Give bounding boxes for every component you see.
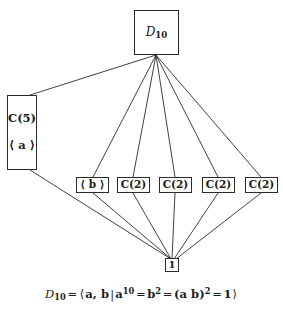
presentation-relation-1-base: a <box>115 287 123 301</box>
node-label-c2-1: C(2) <box>121 179 147 190</box>
node-subgroup-b: ⟨ b ⟩ <box>76 177 109 193</box>
edge-c2-1-to-identity <box>133 193 171 259</box>
node-label-identity: 1 <box>169 260 176 271</box>
node-label-c5: C(5) <box>8 112 36 124</box>
presentation-relation-1-exponent: 10 <box>123 286 135 296</box>
edge-c2-4-to-identity <box>176 193 261 259</box>
presentation-equals-1: = <box>66 287 79 301</box>
node-label-c2-3: C(2) <box>206 179 232 190</box>
presentation-equals-2: = <box>134 287 147 301</box>
node-label-c2-4: C(2) <box>249 179 275 190</box>
node-label-c2-2: C(2) <box>163 179 189 190</box>
node-cyclic-group-c2-2: C(2) <box>159 177 192 193</box>
node-cyclic-group-c2-4: C(2) <box>245 177 278 193</box>
presentation-equals-3: = <box>161 287 174 301</box>
node-trivial-subgroup: 1 <box>165 258 179 272</box>
node-cyclic-group-c2-3: C(2) <box>202 177 235 193</box>
presentation-group-symbol: D <box>45 287 54 301</box>
group-presentation-formula: D10=⟨a, b|a10=b2=(a b)2=1⟩ <box>0 286 283 302</box>
edge-top-to-c5 <box>30 55 156 95</box>
presentation-relation-3-exponent: 2 <box>205 286 211 296</box>
presentation-equals-4: = <box>211 287 224 301</box>
node-cyclic-group-c2-1: C(2) <box>117 177 150 193</box>
edge-c2-2-to-identity <box>172 193 175 259</box>
node-label-b: ⟨ b ⟩ <box>80 179 104 190</box>
node-label-d10: D10 <box>146 26 168 40</box>
node-label-c5-generator: ⟨ a ⟩ <box>9 139 35 151</box>
script-d-glyph: D <box>146 25 156 39</box>
node-cyclic-group-c5: C(5) ⟨ a ⟩ <box>7 95 37 170</box>
presentation-relation-3-base: (a b) <box>174 287 205 301</box>
subscript-10: 10 <box>155 29 167 39</box>
edge-c2-3-to-identity <box>174 193 218 259</box>
edge-top-to-b <box>93 55 156 177</box>
subgroup-lattice-figure: D10 C(5) ⟨ a ⟩ ⟨ b ⟩ C(2) C(2) C(2) C(2)… <box>0 0 283 312</box>
presentation-close-angle: ⟩ <box>232 287 239 301</box>
presentation-generators: a, b <box>85 287 109 301</box>
edge-b-to-identity <box>93 193 171 259</box>
presentation-identity: 1 <box>223 287 231 301</box>
node-dihedral-group-d10: D10 <box>134 10 179 55</box>
presentation-group-subscript: 10 <box>54 292 66 302</box>
edge-top-to-c2-1 <box>133 55 156 177</box>
